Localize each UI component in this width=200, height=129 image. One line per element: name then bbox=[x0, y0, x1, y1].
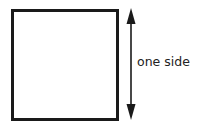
side-label: one side bbox=[137, 54, 190, 69]
square-shape bbox=[11, 9, 119, 121]
double-arrow-icon bbox=[124, 7, 138, 121]
